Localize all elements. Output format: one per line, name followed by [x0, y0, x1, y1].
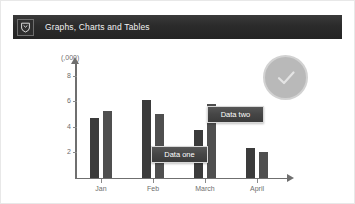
- bar-april-data-two[interactable]: [259, 152, 268, 177]
- x-tick-mark: [257, 179, 258, 183]
- check-circle-icon: [263, 55, 308, 100]
- x-tick-label-feb: Feb: [133, 185, 173, 192]
- bar-feb-data-one[interactable]: [142, 100, 151, 178]
- x-tick-mark: [153, 179, 154, 183]
- bar-april-data-one[interactable]: [246, 148, 255, 177]
- slide: Graphs, Charts and Tables (,000) 2468 Ja…: [0, 0, 355, 204]
- header-title: Graphs, Charts and Tables: [45, 22, 150, 32]
- x-tick-mark: [101, 179, 102, 183]
- bar-chart: (,000) 2468 JanFebMarchApril Data one Da…: [1, 45, 355, 204]
- callout-data-two[interactable]: Data two: [207, 106, 264, 123]
- shield-crest-icon: [17, 19, 34, 36]
- x-tick-mark: [205, 179, 206, 183]
- bar-jan-data-one[interactable]: [90, 118, 99, 178]
- callout-data-one[interactable]: Data one: [151, 146, 208, 163]
- x-tick-label-april: April: [237, 185, 277, 192]
- x-tick-label-march: March: [185, 185, 225, 192]
- bar-jan-data-two[interactable]: [103, 111, 112, 177]
- x-tick-label-jan: Jan: [81, 185, 121, 192]
- header-bar: Graphs, Charts and Tables: [13, 15, 342, 39]
